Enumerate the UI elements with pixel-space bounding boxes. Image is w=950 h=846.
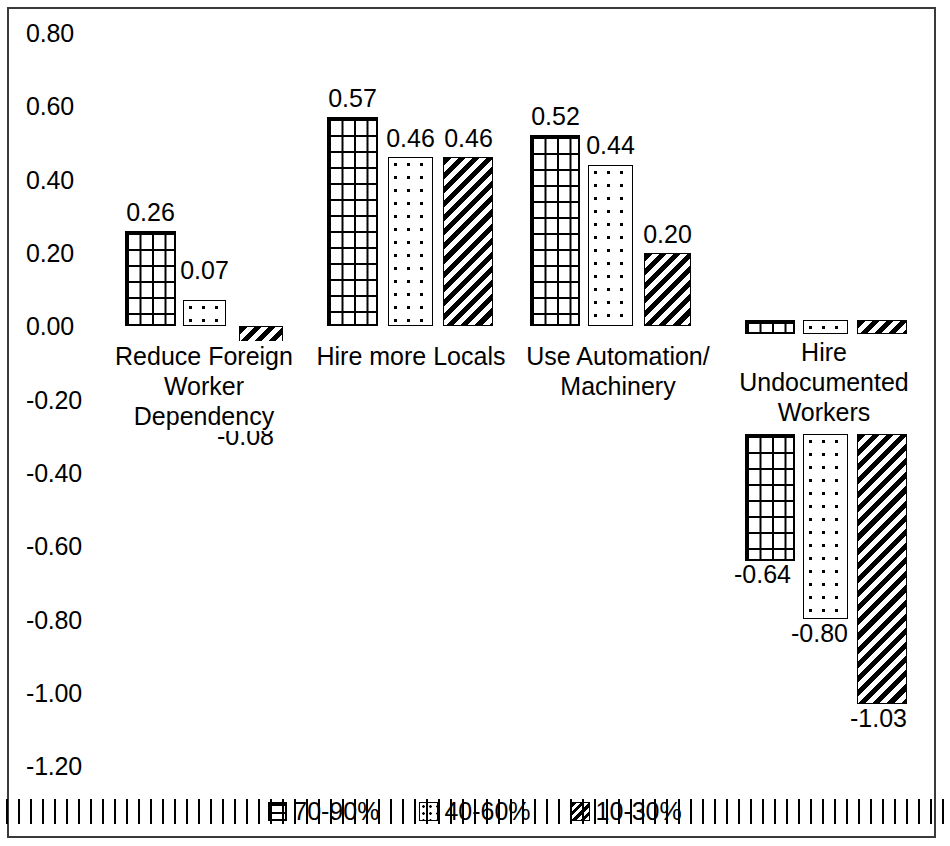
bar-value-label-g1-s0: 0.57 bbox=[302, 86, 403, 111]
y-axis-tick: 0.80 bbox=[26, 21, 118, 46]
bar-g3-s0-stub bbox=[745, 320, 795, 334]
category-label-2: Use Automation/ Machinery bbox=[512, 341, 724, 401]
y-axis-tick-label: -0.60 bbox=[26, 534, 118, 559]
y-axis-tick: -0.60 bbox=[26, 534, 118, 559]
y-axis-tick-label: 0.40 bbox=[26, 168, 118, 193]
bar-g1-s2 bbox=[443, 157, 493, 326]
bar-g3-s1-stub bbox=[803, 320, 848, 334]
bar-value-label-g0-s0: 0.26 bbox=[100, 200, 201, 225]
y-axis-tick-label: 0.80 bbox=[26, 21, 118, 46]
y-axis-tick-label: 0.20 bbox=[26, 241, 118, 266]
bar-value-label-g2-s1: 0.44 bbox=[560, 133, 661, 158]
legend-swatch-brick-icon bbox=[268, 802, 287, 821]
bar-value-label-g1-s2: 0.46 bbox=[418, 126, 519, 151]
legend-entry-70-90[interactable]: 70-90% bbox=[268, 799, 379, 824]
y-axis-tick-label: -1.20 bbox=[26, 754, 118, 779]
bar-value-label-g3-s2: -1.03 bbox=[828, 706, 929, 731]
y-axis-tick-label: -0.40 bbox=[26, 461, 118, 486]
y-axis-tick: 0.00 bbox=[26, 314, 118, 339]
y-axis-tick: -0.40 bbox=[26, 461, 118, 486]
bar-value-label-g3-s0: -0.64 bbox=[712, 562, 813, 587]
bar-g3-s0 bbox=[745, 434, 795, 561]
bar-g1-s1 bbox=[388, 157, 433, 326]
bar-g0-s1 bbox=[183, 300, 226, 326]
category-label-1: Hire more Locals bbox=[305, 341, 517, 371]
y-axis-tick: -1.20 bbox=[26, 754, 118, 779]
y-axis-tick: 0.40 bbox=[26, 168, 118, 193]
y-axis-tick: 0.60 bbox=[26, 94, 118, 119]
bar-g3-s2-stub bbox=[857, 320, 907, 334]
category-label-0: Reduce Foreign Worker Dependency bbox=[98, 341, 310, 431]
bar-g0-s2 bbox=[239, 326, 283, 342]
chart-legend: 70-90% 40-60% 10-30% bbox=[0, 799, 950, 824]
bar-chart: 0.80 0.60 0.40 0.20 0.00 -0.20 -0.40 -0.… bbox=[0, 0, 950, 846]
bar-value-label-g0-s1: 0.07 bbox=[154, 258, 255, 283]
bar-value-label-g3-s1: -0.80 bbox=[769, 621, 870, 646]
y-axis-tick-label: 0.60 bbox=[26, 94, 118, 119]
bar-value-label-g2-s0: 0.52 bbox=[505, 104, 606, 129]
y-axis-tick: -1.00 bbox=[26, 681, 118, 706]
y-axis-tick-label: -1.00 bbox=[26, 681, 118, 706]
plot-area: 0.80 0.60 0.40 0.20 0.00 -0.20 -0.40 -0.… bbox=[0, 0, 950, 846]
y-axis-tick: 0.20 bbox=[26, 241, 118, 266]
bar-value-label-g2-s2: 0.20 bbox=[617, 222, 718, 247]
bar-g2-s0 bbox=[530, 135, 580, 326]
category-label-3: Hire Undocumented Workers bbox=[718, 337, 930, 427]
y-axis-tick-label: 0.00 bbox=[26, 314, 118, 339]
bar-g2-s2 bbox=[644, 253, 691, 326]
y-axis-tick: -0.80 bbox=[26, 608, 118, 633]
bar-g3-s2 bbox=[857, 434, 907, 704]
y-axis-tick-label: -0.80 bbox=[26, 608, 118, 633]
bar-g3-s1 bbox=[803, 434, 848, 619]
